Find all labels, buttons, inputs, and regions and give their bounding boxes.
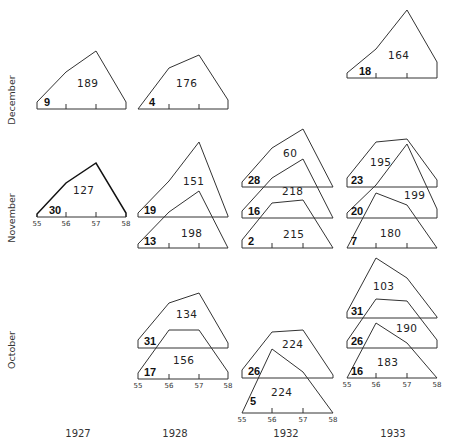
column-labels: 1927192819321933	[65, 428, 405, 439]
total-value: 176	[176, 77, 198, 89]
polygon-1927-december-9: 9189	[37, 51, 126, 109]
sample-count: 5	[250, 395, 256, 407]
total-value: 199	[404, 189, 426, 201]
sample-count: 23	[351, 174, 363, 186]
polygon-1928-november-19: 19151	[138, 142, 228, 217]
tick-label: 56	[372, 381, 381, 389]
polygon-1928-december-4: 4176	[138, 55, 228, 109]
total-value: 151	[183, 175, 205, 187]
sample-count: 31	[351, 305, 363, 317]
total-value: 198	[181, 227, 203, 239]
sample-count: 17	[144, 366, 156, 378]
tick-label: 55	[238, 416, 247, 424]
sample-count: 31	[144, 335, 156, 347]
polygon-1933-november-7: 7180	[347, 193, 437, 248]
frequency-polygon-chart: DecemberNovemberOctober 1927192819321933…	[0, 0, 453, 445]
total-value: 215	[283, 228, 305, 240]
total-value: 60	[283, 147, 297, 159]
polygon-1928-october-31: 31134	[138, 293, 228, 348]
tick-label: 58	[122, 220, 131, 228]
tick-label: 57	[92, 220, 101, 228]
tick-label: 57	[299, 416, 308, 424]
tick-label: 56	[268, 416, 277, 424]
polygon-1927-november-30: 5556575830127	[33, 163, 131, 228]
column-label-1927: 1927	[65, 428, 90, 439]
total-value: 164	[388, 49, 410, 61]
total-value: 127	[73, 184, 95, 196]
total-value: 224	[282, 338, 304, 350]
sample-count: 18	[359, 65, 371, 77]
polygon-1932-october-5: 555657585224	[238, 349, 338, 424]
polygon-1933-october-16: 5556575816183	[343, 323, 442, 389]
polygon-1933-december-18: 18164	[347, 10, 437, 78]
column-label-1932: 1932	[273, 428, 298, 439]
row-label-november: November	[6, 193, 17, 243]
frequency-polygon-outline	[347, 193, 437, 248]
tick-label: 57	[195, 382, 204, 390]
polygon-1933-october-31: 31103	[347, 258, 437, 318]
sample-count: 16	[351, 365, 363, 377]
tick-label: 58	[329, 416, 338, 424]
total-value: 218	[282, 185, 304, 197]
sample-count: 20	[351, 205, 363, 217]
sample-count: 2	[248, 235, 254, 247]
total-value: 134	[176, 308, 198, 320]
total-value: 156	[173, 354, 195, 366]
polygon-1932-november-28: 2860	[242, 129, 333, 187]
total-value: 103	[373, 280, 395, 292]
tick-label: 58	[224, 382, 233, 390]
tick-label: 57	[403, 381, 412, 389]
tick-label: 55	[343, 381, 352, 389]
sample-count: 13	[144, 235, 156, 247]
sample-count: 30	[49, 204, 61, 216]
row-label-october: October	[6, 331, 17, 369]
sample-count: 26	[351, 335, 363, 347]
column-label-1933: 1933	[380, 428, 405, 439]
tick-label: 55	[33, 220, 42, 228]
sample-count: 9	[44, 96, 50, 108]
tick-label: 58	[433, 381, 442, 389]
total-value: 224	[271, 386, 293, 398]
polygon-1932-november-16: 16218	[242, 159, 333, 218]
sample-count: 19	[144, 204, 156, 216]
sample-count: 7	[351, 235, 357, 247]
sample-count: 4	[149, 96, 156, 108]
sample-count: 16	[248, 205, 260, 217]
polygon-panels: 9189417618164555657583012719151131982860…	[33, 10, 442, 424]
tick-label: 56	[165, 382, 174, 390]
total-value: 180	[380, 227, 402, 239]
sample-count: 26	[248, 365, 260, 377]
tick-label: 56	[62, 220, 71, 228]
column-label-1928: 1928	[162, 428, 187, 439]
row-labels: DecemberNovemberOctober	[6, 75, 17, 369]
row-label-december: December	[6, 75, 17, 124]
total-value: 195	[370, 156, 392, 168]
tick-label: 55	[134, 382, 143, 390]
total-value: 190	[396, 322, 418, 334]
total-value: 189	[77, 77, 99, 89]
total-value: 183	[377, 356, 399, 368]
polygon-1932-october-26: 26224	[242, 330, 333, 378]
sample-count: 28	[248, 174, 260, 186]
